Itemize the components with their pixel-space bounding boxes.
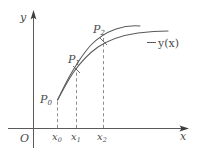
tick-label-x0-sub: 0 bbox=[58, 136, 62, 144]
origin-label: O bbox=[20, 133, 29, 144]
tick-label-x2: x2 bbox=[97, 132, 107, 143]
point-label-p0-sub: 0 bbox=[47, 98, 52, 107]
x-axis-label: x bbox=[180, 131, 186, 142]
point-label-p0: P0 bbox=[40, 94, 52, 106]
tick-label-x0-base: x bbox=[52, 131, 58, 142]
point-label-p2: P2 bbox=[93, 24, 105, 36]
dashed-ordinates-group bbox=[58, 38, 104, 128]
point-label-p2-sub: 2 bbox=[100, 28, 105, 37]
point-label-p1-sub: 1 bbox=[75, 58, 80, 67]
y-axis-label: y bbox=[20, 12, 26, 23]
tick-label-x2-base: x bbox=[97, 131, 103, 142]
curve-label: y(x) bbox=[158, 38, 179, 49]
euler-method-figure: y x O P0 P1 P2 x0 x1 x2 y(x) bbox=[0, 0, 199, 155]
point-label-p1: P1 bbox=[68, 54, 80, 66]
tick-label-x0: x0 bbox=[52, 132, 62, 143]
tick-label-x1-sub: 1 bbox=[77, 136, 81, 144]
tick-label-x2-sub: 2 bbox=[103, 136, 107, 144]
tick-label-x1-base: x bbox=[71, 131, 77, 142]
tick-label-x1: x1 bbox=[71, 132, 81, 143]
